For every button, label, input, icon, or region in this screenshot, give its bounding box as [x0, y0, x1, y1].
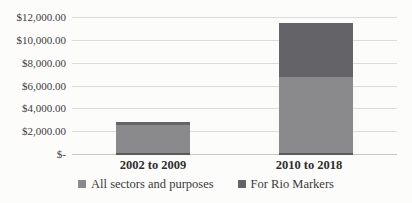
- gridline: [72, 17, 397, 18]
- legend-label: All sectors and purposes: [91, 177, 214, 192]
- y-axis-tick-label: $6,000.00: [0, 81, 66, 92]
- x-category-label-1: 2002 to 2009: [93, 158, 213, 173]
- bar-segment-for-rio-markers: [116, 122, 190, 125]
- y-axis-tick-label: $2,000.00: [0, 126, 66, 137]
- y-axis-tick-label: $4,000.00: [0, 103, 66, 114]
- legend-item-rio-markers: For Rio Markers: [238, 177, 334, 192]
- chart-legend: All sectors and purposes For Rio Markers: [0, 175, 412, 193]
- bar-2010-to-2018: [279, 23, 353, 155]
- bar-segment-all-sectors-and-purposes: [116, 123, 190, 155]
- y-axis-tick-label: $8,000.00: [0, 58, 66, 69]
- bar-2002-to-2009: [116, 122, 190, 155]
- legend-swatch-icon: [78, 180, 86, 188]
- y-axis-tick-label: $10,000.00: [0, 35, 66, 46]
- plot-area: [72, 10, 397, 155]
- bar-segment-for-rio-markers: [279, 23, 353, 77]
- legend-label: For Rio Markers: [251, 177, 334, 192]
- legend-item-all-sectors: All sectors and purposes: [78, 177, 214, 192]
- stacked-bar-chart: $-$2,000.00$4,000.00$6,000.00$8,000.00$1…: [0, 0, 412, 203]
- bar-segment-all-sectors-and-purposes: [279, 75, 353, 155]
- x-category-label-2: 2010 to 2018: [249, 158, 369, 173]
- legend-swatch-icon: [238, 180, 246, 188]
- y-axis-tick-label: $12,000.00: [0, 12, 66, 23]
- y-axis-tick-label: $-: [0, 149, 66, 160]
